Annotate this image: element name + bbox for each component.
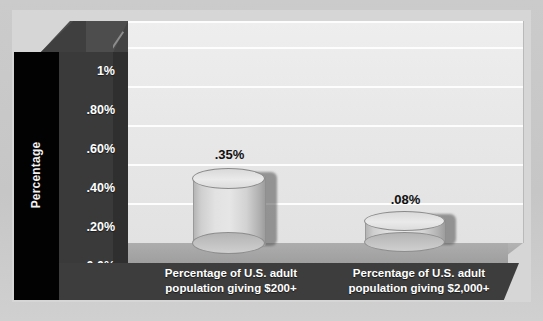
y-tick-label: 1% xyxy=(97,64,115,78)
bar-bottom-ellipse xyxy=(192,232,265,254)
value-label-1: .08% xyxy=(365,192,446,207)
value-label-0: .35% xyxy=(193,147,266,162)
category-label-1-line1: Percentage of U.S. adult xyxy=(325,266,513,281)
gridline xyxy=(128,86,523,88)
y-tick-label: .80% xyxy=(87,103,116,117)
bar-top-ellipse xyxy=(364,211,445,231)
y-axis-tick-labels: 1% .80% .60% .40% .20% 0.0% xyxy=(59,52,119,263)
category-label-0-line1: Percentage of U.S. adult xyxy=(137,266,325,281)
category-label-1: Percentage of U.S. adult population givi… xyxy=(325,266,513,296)
category-label-1-line2: population giving $2,000+ xyxy=(325,281,513,296)
category-label-0: Percentage of U.S. adult population givi… xyxy=(137,266,325,296)
gridline xyxy=(128,47,523,49)
category-label-band-left xyxy=(14,263,59,300)
gridline xyxy=(128,125,523,127)
y-axis-title-text: Percentage xyxy=(30,142,44,209)
gridline xyxy=(128,21,523,23)
bar-cylinder-0[interactable] xyxy=(193,168,266,248)
chart-container: .35% .08% Percentage 1% .80% .60% .40% .… xyxy=(0,0,543,321)
bar-bottom-ellipse xyxy=(364,232,445,252)
gridline xyxy=(128,203,523,205)
gridline xyxy=(128,164,523,166)
y-axis-title: Percentage xyxy=(14,52,59,298)
chart-floor-front xyxy=(128,243,508,264)
bar-top-ellipse xyxy=(192,168,265,189)
y-tick-label: .20% xyxy=(87,220,116,234)
y-tick-label: .40% xyxy=(87,181,116,195)
category-label-0-line2: population giving $200+ xyxy=(137,281,325,296)
y-tick-label: .60% xyxy=(87,142,116,156)
plot-area xyxy=(128,21,524,243)
bar-cylinder-1[interactable] xyxy=(365,211,446,249)
